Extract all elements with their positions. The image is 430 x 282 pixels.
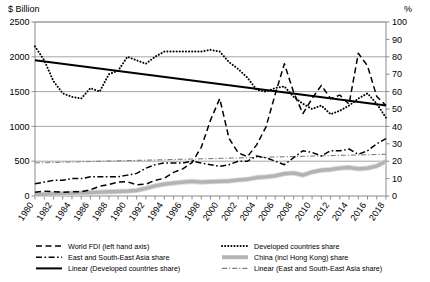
x-tick-label: 1980 <box>16 200 36 222</box>
chart-container: $ Billion%050010001500200025000102030405… <box>0 0 430 282</box>
x-tick-label: 1986 <box>71 200 91 222</box>
y2-tick-label: 10 <box>392 174 402 184</box>
y2-tick-label: 60 <box>392 87 402 97</box>
x-tick-label: 2004 <box>238 200 258 222</box>
x-tick-label: 1992 <box>127 200 147 222</box>
x-tick-label: 2016 <box>348 200 368 222</box>
y-tick-label: 2500 <box>9 17 29 27</box>
x-tick-label: 2000 <box>201 200 221 222</box>
x-tick-label: 1990 <box>108 200 128 222</box>
y2-tick-label: 100 <box>392 17 407 27</box>
legend-item-label: China (incl Hong Kong) share <box>254 253 348 262</box>
y-tick-label: 0 <box>24 191 29 201</box>
legend-item-label: Developed countries share <box>254 242 340 251</box>
x-tick-label: 2006 <box>256 200 276 222</box>
y-tick-label: 1000 <box>9 122 29 132</box>
legend-item-label: Linear (East and South-East Asia share) <box>254 264 382 273</box>
x-tick-label: 1988 <box>90 200 110 222</box>
y-tick-label: 500 <box>14 156 29 166</box>
y-axis-title: $ Billion <box>8 4 40 14</box>
x-tick-label: 1998 <box>182 200 202 222</box>
y-tick-label: 1500 <box>9 87 29 97</box>
x-tick-label: 2010 <box>293 200 313 222</box>
series-linear-developed-countries-share <box>35 60 386 105</box>
x-tick-label: 2012 <box>312 200 332 222</box>
y2-tick-label: 30 <box>392 139 402 149</box>
x-tick-label: 2008 <box>275 200 295 222</box>
y2-tick-label: 70 <box>392 69 402 79</box>
y-tick-label: 2000 <box>9 52 29 62</box>
legend-item-label: East and South-East Asia share <box>68 253 169 262</box>
y2-tick-label: 90 <box>392 35 402 45</box>
legend-item-label: World FDI (left hand axis) <box>68 242 149 251</box>
y2-tick-label: 50 <box>392 104 402 114</box>
x-tick-label: 1982 <box>34 200 54 222</box>
y2-tick-label: 40 <box>392 122 402 132</box>
x-tick-label: 1994 <box>145 200 165 222</box>
fdi-chart: $ Billion%050010001500200025000102030405… <box>0 0 430 282</box>
x-tick-label: 2002 <box>219 200 239 222</box>
x-tick-label: 2014 <box>330 200 350 222</box>
y2-tick-label: 80 <box>392 52 402 62</box>
legend-item-label: Linear (Developed countries share) <box>68 264 180 273</box>
y2-tick-label: 20 <box>392 156 402 166</box>
x-tick-label: 1984 <box>53 200 73 222</box>
series-linear-east-and-south-east-asia-share <box>35 154 386 163</box>
y2-axis-title: % <box>404 4 412 14</box>
x-tick-label: 1996 <box>164 200 184 222</box>
x-tick-label: 2018 <box>367 200 387 222</box>
y2-tick-label: 0 <box>392 191 397 201</box>
